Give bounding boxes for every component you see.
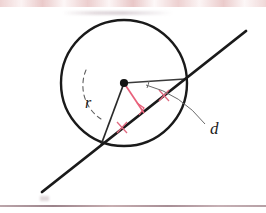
distance-label: d [210, 120, 219, 137]
radius-right-segment [124, 79, 185, 83]
radius-label: r [85, 95, 91, 111]
center-dot-icon [120, 79, 128, 87]
perpendicular-distance-segment [124, 83, 144, 113]
circle-secant-diagram [0, 0, 266, 213]
figure-root: r d [0, 0, 266, 213]
